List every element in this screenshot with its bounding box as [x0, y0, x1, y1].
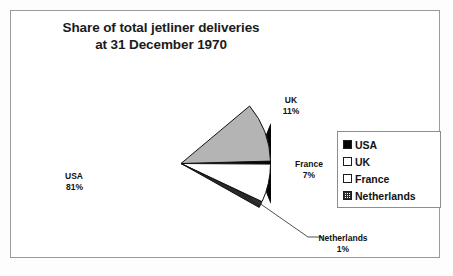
slice-label-netherlands: Netherlands 1%	[307, 233, 379, 255]
slice-label-uk-pct: 11%	[273, 106, 309, 117]
pie-chart	[91, 73, 271, 254]
legend-swatch-netherlands-icon	[343, 191, 352, 200]
slice-label-uk: UK 11%	[273, 95, 309, 117]
chart-legend: USA UK France Netherlands	[337, 131, 441, 208]
legend-label-netherlands: Netherlands	[355, 190, 416, 202]
legend-item-uk[interactable]: UK	[343, 153, 436, 170]
pie-slice-france[interactable]	[181, 164, 271, 202]
legend-label-france: France	[355, 173, 389, 185]
chart-screenshot: Share of total jetliner deliveries at 31…	[0, 0, 453, 276]
chart-frame: Share of total jetliner deliveries at 31…	[10, 10, 440, 258]
slice-label-france-pct: 7%	[287, 170, 331, 181]
slice-label-france: France 7%	[287, 159, 331, 181]
slice-label-netherlands-name: Netherlands	[318, 233, 367, 243]
legend-swatch-uk-icon	[343, 157, 352, 166]
legend-label-uk: UK	[355, 156, 370, 168]
slice-label-netherlands-pct: 1%	[307, 244, 379, 255]
chart-title-line2: at 31 December 1970	[11, 36, 311, 53]
legend-swatch-usa-icon	[343, 140, 352, 149]
page-title: Share of total jetliner deliveries at 31…	[11, 19, 311, 53]
pie-svg	[91, 73, 271, 254]
slice-label-usa-name: USA	[65, 171, 83, 181]
legend-swatch-france-icon	[343, 174, 352, 183]
slice-label-usa: USA 81%	[41, 171, 83, 193]
slice-label-france-name: France	[295, 159, 323, 169]
legend-label-usa: USA	[355, 139, 377, 151]
pie-slice-uk[interactable]	[181, 106, 271, 164]
slice-label-usa-pct: 81%	[41, 182, 83, 193]
legend-item-france[interactable]: France	[343, 170, 436, 187]
chart-title-line1: Share of total jetliner deliveries	[63, 20, 260, 35]
legend-item-usa[interactable]: USA	[343, 136, 436, 153]
legend-item-netherlands[interactable]: Netherlands	[343, 187, 436, 204]
slice-label-uk-name: UK	[285, 95, 297, 105]
